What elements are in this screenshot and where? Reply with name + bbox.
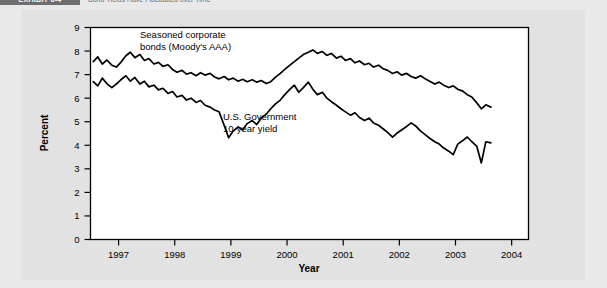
x-tick-label: 1998	[164, 249, 185, 260]
y-tick-label: 1	[74, 210, 79, 221]
bond-yields-line-chart: 0123456789 19971998199920002001200220032…	[22, 10, 585, 280]
x-axis-title: Year	[298, 263, 319, 274]
y-tick-label: 8	[74, 46, 79, 57]
corporate-bonds-annotation-line1: Seasoned corporate	[140, 29, 226, 40]
x-tick-label: 1997	[108, 249, 129, 260]
figure-number-badge: EXHIBIT 6-4	[0, 0, 80, 5]
x-tick-label: 2002	[389, 249, 410, 260]
plot-frame	[91, 28, 529, 240]
y-tick-label: 6	[74, 93, 79, 104]
y-tick-label: 0	[74, 234, 79, 245]
y-tick-label: 7	[74, 69, 79, 80]
x-tick-label: 2001	[333, 249, 354, 260]
figure-caption: Bond Yields Have Fluctuated over Time	[88, 0, 588, 5]
x-axis-ticks: 19971998199920002001200220032004	[108, 240, 522, 260]
x-tick-label: 2003	[445, 249, 466, 260]
government-yield-annotation-line1: U.S. Government	[223, 111, 297, 122]
y-tick-label: 9	[74, 22, 79, 33]
y-axis-ticks: 0123456789	[74, 22, 90, 245]
chart-panel: 0123456789 19971998199920002001200220032…	[22, 10, 585, 280]
figure-header-strip: EXHIBIT 6-4 Bond Yields Have Fluctuated …	[0, 0, 607, 6]
y-tick-label: 2	[74, 187, 79, 198]
x-tick-label: 2004	[501, 249, 522, 260]
corporate-bonds-annotation-line2: bonds (Moody's AAA)	[140, 41, 231, 52]
y-tick-label: 5	[74, 116, 79, 127]
y-tick-label: 4	[74, 140, 79, 151]
government-yield-annotation-line2: 10-year yield	[223, 123, 277, 134]
x-tick-label: 2000	[276, 249, 297, 260]
y-tick-label: 3	[74, 163, 79, 174]
x-tick-label: 1999	[220, 249, 241, 260]
page-root: EXHIBIT 6-4 Bond Yields Have Fluctuated …	[0, 0, 607, 288]
y-axis-title: Percent	[39, 114, 50, 151]
